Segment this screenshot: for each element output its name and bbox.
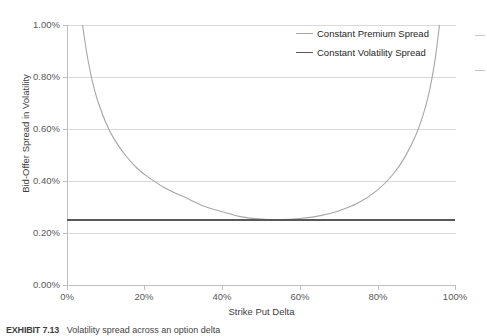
x-tick-label-60: 60% — [275, 292, 325, 302]
page-edge-mark-bottom — [475, 70, 485, 71]
legend-label-premium: Constant Premium Spread — [317, 28, 429, 39]
x-tick-20 — [144, 286, 145, 290]
x-tick-0 — [67, 286, 68, 290]
x-tick-label-20: 20% — [119, 292, 169, 302]
caption-number: EXHIBIT 7.13 — [6, 325, 59, 335]
y-axis-title: Bid-Offer Spread in Volatility — [20, 49, 31, 219]
figure-caption: EXHIBIT 7.13 Volatility spread across an… — [6, 325, 476, 336]
page-edge-mark-top — [475, 35, 485, 36]
x-axis-title: Strike Put Delta — [67, 306, 456, 317]
figure-container: 1.00% 0.80% 0.60% 0.40% 0.20% 0.00% 0% 2… — [0, 0, 487, 336]
x-tick-60 — [300, 286, 301, 290]
x-tick-100 — [455, 286, 456, 290]
y-tick-label-1_00: 1.00% — [14, 20, 60, 30]
x-tick-80 — [378, 286, 379, 290]
caption-text: Volatility spread across an option delta — [67, 325, 221, 335]
x-tick-label-100: 100% — [430, 292, 480, 302]
legend-label-volatility: Constant Volatility Spread — [317, 47, 426, 58]
y-tick-label-0_20: 0.20% — [14, 228, 60, 238]
legend-item-constant-volatility-spread: Constant Volatility Spread — [296, 45, 429, 60]
legend-swatch-icon-premium — [296, 33, 313, 34]
x-axis-line — [67, 285, 456, 286]
y-tick-label-0_00: 0.00% — [14, 280, 60, 290]
legend-swatch-icon-volatility — [296, 52, 313, 53]
x-tick-label-40: 40% — [197, 292, 247, 302]
series-plot — [67, 25, 455, 285]
x-tick-label-0: 0% — [42, 292, 92, 302]
x-tick-label-80: 80% — [353, 292, 403, 302]
chart-legend: Constant Premium Spread Constant Volatil… — [296, 26, 429, 64]
x-tick-40 — [222, 286, 223, 290]
legend-item-constant-premium-spread: Constant Premium Spread — [296, 26, 429, 41]
